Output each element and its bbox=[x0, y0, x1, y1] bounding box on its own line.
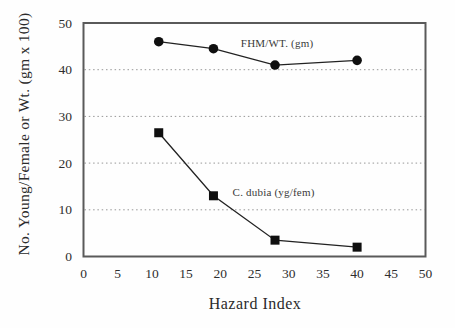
x-axis-title: Hazard Index bbox=[84, 295, 426, 313]
x-tick-label-45: 45 bbox=[385, 266, 399, 281]
x-tick-label-0: 0 bbox=[80, 266, 87, 281]
figure-canvas: 0510152025303540455001020304050 No. Youn… bbox=[0, 0, 455, 328]
data-point-square-1 bbox=[209, 191, 218, 200]
y-axis-title: No. Young/Female or Wt. (gm x 100) bbox=[15, 13, 33, 256]
x-tick-label-5: 5 bbox=[114, 266, 121, 281]
y-tick-label-20: 20 bbox=[59, 156, 73, 171]
data-point-circle-2 bbox=[270, 60, 280, 70]
x-tick-label-50: 50 bbox=[419, 266, 433, 281]
data-point-circle-1 bbox=[209, 44, 219, 54]
x-tick-label-40: 40 bbox=[350, 266, 364, 281]
data-point-circle-3 bbox=[352, 56, 362, 66]
y-tick-label-30: 30 bbox=[59, 109, 73, 124]
plot-border bbox=[84, 23, 426, 257]
data-point-square-3 bbox=[353, 243, 362, 252]
x-tick-label-15: 15 bbox=[179, 266, 193, 281]
series-label-cdubia: C. dubia (yg/fem) bbox=[233, 186, 315, 198]
x-tick-label-20: 20 bbox=[214, 266, 228, 281]
data-point-square-0 bbox=[154, 128, 163, 137]
data-point-circle-0 bbox=[154, 37, 164, 47]
data-point-square-2 bbox=[271, 236, 280, 245]
x-tick-label-30: 30 bbox=[282, 266, 296, 281]
chart-plot-area: 0510152025303540455001020304050 bbox=[0, 0, 455, 328]
x-tick-label-25: 25 bbox=[248, 266, 262, 281]
y-tick-label-50: 50 bbox=[59, 16, 73, 31]
x-tick-label-35: 35 bbox=[316, 266, 330, 281]
y-tick-label-10: 10 bbox=[59, 202, 73, 217]
x-tick-label-10: 10 bbox=[145, 266, 159, 281]
series-label-fhm: FHM/WT. (gm) bbox=[241, 37, 313, 49]
y-tick-label-40: 40 bbox=[59, 62, 73, 77]
y-tick-label-0: 0 bbox=[65, 249, 72, 264]
